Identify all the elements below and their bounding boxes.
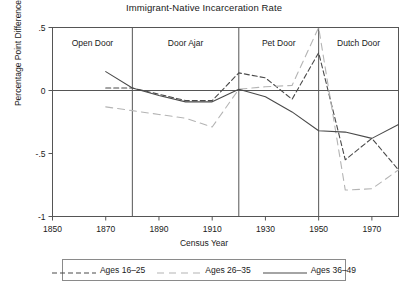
y-tick-label: -1: [38, 212, 46, 222]
x-tick-label: 1930: [256, 224, 275, 234]
x-tick-label: 1910: [203, 224, 222, 234]
legend-label: Ages 36–49: [307, 265, 362, 275]
legend-swatch-dashed-short-icon: [52, 270, 96, 271]
panel-label: Open Door: [72, 38, 114, 48]
legend-label: Ages 16–25: [96, 265, 151, 275]
x-tick-label: 1870: [96, 224, 115, 234]
series-line: [106, 72, 399, 139]
x-tick-label: 1950: [309, 224, 328, 234]
x-tick-label: 1850: [43, 224, 62, 234]
legend-swatch-solid-icon: [263, 270, 307, 271]
x-tick-label: 1970: [362, 224, 381, 234]
legend-label: Ages 26–35: [201, 265, 256, 275]
y-tick-label: -.5: [36, 149, 46, 159]
legend-swatch-dashed-long-icon: [157, 270, 201, 271]
series-line: [106, 28, 399, 191]
y-tick-label: 0: [41, 86, 46, 96]
chart-figure: Immigrant-Native Incarceration Rate Perc…: [0, 0, 408, 288]
legend-item[interactable]: Ages 26–35: [151, 265, 256, 275]
x-tick-label: 1890: [150, 224, 169, 234]
panel-label: Pet Door: [262, 38, 296, 48]
legend-item[interactable]: Ages 36–49: [257, 265, 362, 275]
panel-label: Dutch Door: [337, 38, 380, 48]
y-tick-label: .5: [38, 23, 45, 33]
series-line: [106, 53, 399, 170]
plot-area: .50-.5-11850187018901910193019501970Open…: [0, 0, 408, 252]
legend-item[interactable]: Ages 16–25: [46, 265, 151, 275]
chart-legend: Ages 16–25Ages 26–35Ages 36–49: [62, 259, 346, 281]
panel-label: Door Ajar: [168, 38, 204, 48]
plot-frame: [53, 28, 399, 217]
